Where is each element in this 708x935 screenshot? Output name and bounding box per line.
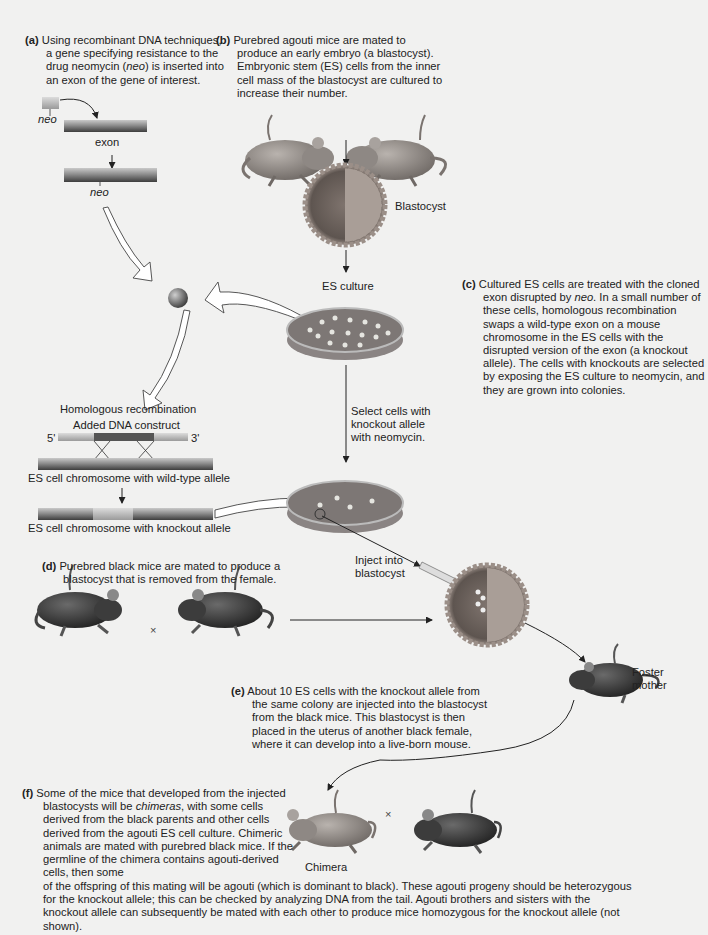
- es-culture-label: ES culture: [322, 280, 374, 293]
- selection-dish: [287, 481, 403, 533]
- blastocyst-agouti: [305, 165, 385, 245]
- step-a-description: (a) Using recombinant DNA techniques, a …: [25, 34, 226, 87]
- step-b-description: (b) Purebred agouti mice are mated to pr…: [216, 34, 447, 100]
- chimera-label: Chimera: [305, 861, 347, 874]
- step-e-label: (e): [231, 685, 245, 697]
- step-d-label: (d): [42, 560, 56, 572]
- step-d-description: (d) Purebred black mice are mated to pro…: [42, 560, 298, 586]
- wild-type-chromosome-bar: [38, 458, 213, 470]
- neo-label-top: neo: [38, 113, 57, 126]
- cross-symbol: ×: [150, 624, 156, 636]
- step-e-description: (e) About 10 ES cells with the knockout …: [231, 685, 492, 751]
- step-c-label: (c): [462, 278, 476, 290]
- wild-type-chromosome-label: ES cell chromosome with wild-type allele: [28, 472, 230, 485]
- step-b-label: (b): [216, 34, 230, 46]
- step-a-label: (a): [25, 34, 39, 46]
- exon-bar: [64, 120, 147, 132]
- knockout-chromosome-label: ES cell chromosome with knockout allele: [28, 522, 231, 535]
- step-f-continuation: of the offspring of this mating will be …: [43, 880, 633, 933]
- step-f-description: (f) Some of the mice that developed from…: [22, 787, 293, 879]
- chimera-mouse: [287, 790, 375, 853]
- step-c-description: (c) Cultured ES cells are treated with t…: [462, 278, 708, 397]
- exon-label: exon: [95, 136, 119, 149]
- added-dna-construct-label: Added DNA construct: [73, 419, 180, 432]
- blastocyst-label: Blastocyst: [395, 200, 446, 213]
- blastocyst-injected: [447, 565, 527, 645]
- inject-label: Inject into blastocyst: [355, 554, 425, 580]
- hollow-arrow-dish-to-sphere: [205, 282, 302, 320]
- foster-mother-label: Foster mother: [632, 666, 692, 692]
- construct-neo-region: [94, 433, 154, 441]
- exon-with-neo-bar: [64, 168, 157, 182]
- select-cells-label: Select cells with knockout allele with n…: [351, 405, 431, 445]
- homologous-recombination-label: Homologous recombination: [60, 403, 196, 416]
- es-culture-dish: [287, 308, 403, 360]
- dna-construct-sphere: [168, 288, 188, 308]
- cross-symbol-chimera: ×: [385, 808, 391, 820]
- neo-label-bottom: neo: [90, 186, 109, 199]
- three-prime-label: 3': [191, 432, 199, 445]
- five-prime-label: 5': [47, 432, 55, 445]
- step-f-label: (f): [22, 787, 33, 799]
- hollow-arrow-construct: [103, 207, 152, 281]
- black-mouse-mate: [414, 790, 501, 853]
- hollow-arrow-to-recombination: [143, 310, 190, 410]
